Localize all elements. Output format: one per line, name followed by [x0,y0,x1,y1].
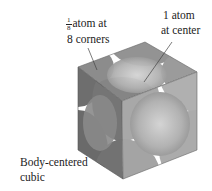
caption-line2: cubic [20,171,45,184]
caption-line1: Body-centered [20,156,88,169]
corner-atom-label-line2: 8 corners [67,33,109,46]
corner-atom-label: 1 8 atom at [66,17,107,32]
center-atom-label-line2: at center [161,24,200,37]
center-atom-label-line1: 1 atom [163,9,195,22]
one-eighth-fraction: 1 8 [66,17,72,32]
